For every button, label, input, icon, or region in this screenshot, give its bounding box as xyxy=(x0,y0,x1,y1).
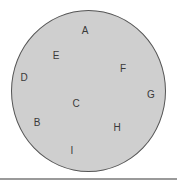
bottom-divider xyxy=(0,178,177,180)
point-label-c: C xyxy=(72,99,79,109)
point-label-a: A xyxy=(82,26,89,36)
point-label-i: I xyxy=(71,146,74,156)
point-label-e: E xyxy=(53,51,60,61)
point-label-g: G xyxy=(147,90,155,100)
point-label-f: F xyxy=(120,64,126,74)
point-label-d: D xyxy=(20,73,27,83)
point-label-h: H xyxy=(113,123,120,133)
circle-diagram: A E F D G C B H I xyxy=(0,0,177,183)
point-label-b: B xyxy=(34,118,41,128)
